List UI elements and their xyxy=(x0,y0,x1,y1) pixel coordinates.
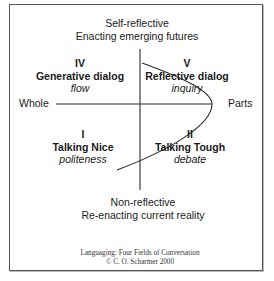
quadrant-v: V Reflective dialog inquiry xyxy=(145,57,228,95)
axis-label-parts: Parts xyxy=(228,97,253,110)
bottom-label-line2: Re-enacting current reality xyxy=(81,209,204,222)
footer-caption: Languaging: Four Fields of Conversation … xyxy=(81,249,200,267)
axes-and-curve xyxy=(0,0,274,281)
axis-label-whole: Whole xyxy=(19,97,49,110)
quadrant-subtitle: debate xyxy=(155,153,225,166)
quadrant-numeral: I xyxy=(52,128,113,141)
quadrant-iv: IV Generative dialog flow xyxy=(36,57,124,95)
top-label-line2: Enacting emerging futures xyxy=(76,30,199,43)
bottom-label: Non-reflective Re-enacting current reali… xyxy=(81,196,204,221)
quadrant-subtitle: flow xyxy=(36,82,124,95)
quadrant-title: Talking Tough xyxy=(155,141,225,154)
quadrant-title: Reflective dialog xyxy=(145,70,228,83)
quadrant-numeral: V xyxy=(145,57,228,70)
footer-title: Languaging: Four Fields of Conversation xyxy=(81,249,200,258)
top-label: Self-reflective Enacting emerging future… xyxy=(76,17,199,42)
quadrant-numeral: II xyxy=(155,128,225,141)
quadrant-title: Generative dialog xyxy=(36,70,124,83)
quadrant-ii: II Talking Tough debate xyxy=(155,128,225,166)
quadrant-title: Talking Nice xyxy=(52,141,113,154)
quadrant-numeral: IV xyxy=(36,57,124,70)
top-label-line1: Self-reflective xyxy=(76,17,199,30)
footer-copyright: © C. O. Scharmer 2000 xyxy=(81,258,200,267)
quadrant-i: I Talking Nice politeness xyxy=(52,128,113,166)
bottom-label-line1: Non-reflective xyxy=(81,196,204,209)
quadrant-subtitle: inquiry xyxy=(145,82,228,95)
quadrant-subtitle: politeness xyxy=(52,153,113,166)
